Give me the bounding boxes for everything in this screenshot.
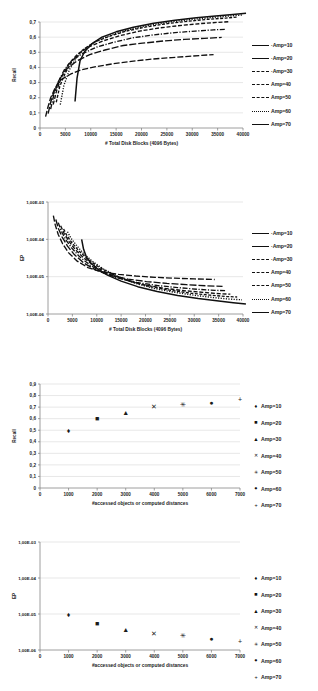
chart-svg-2: 1,00E-061,00E-051,00E-041,00E-0305000100… (0, 178, 252, 360)
legend-label: Amp=50 (271, 94, 291, 100)
y-tick-label: 0,3 (30, 451, 37, 456)
legend-item-amp-20[interactable]: ■Amp=20 (252, 587, 281, 604)
legend-4: ♦Amp=10■Amp=20▲Amp=30✕Amp=40✳Amp=50●Amp=… (252, 570, 281, 686)
legend-label: ·Amp=20 (271, 243, 292, 249)
legend-item-amp-40[interactable]: Amp=40 (252, 78, 292, 91)
legend-line-swatch (252, 255, 269, 262)
legend-item-amp-10[interactable]: ♦Amp=10 (252, 398, 281, 415)
legend-line-swatch (252, 67, 269, 74)
legend-square-icon: ■ (252, 420, 260, 425)
x-tick-label: 6000 (206, 654, 217, 659)
legend-item-amp-50[interactable]: Amp=50 (252, 91, 292, 104)
legend-item-amp-30[interactable]: ·Amp=30 (252, 252, 292, 265)
legend-plus-icon: + (252, 503, 260, 508)
legend-item-amp-20[interactable]: ·Amp=20 (252, 239, 292, 252)
x-tick-label: 25000 (160, 132, 173, 137)
legend-item-amp-40[interactable]: ✕Amp=40 (252, 448, 281, 465)
legend-label: Amp=20 (261, 592, 281, 598)
legend-item-amp-70[interactable]: Amp=70 (252, 305, 292, 318)
point-amp-10: ♦ (67, 427, 71, 434)
plot-area-3: 00,10,20,30,40,50,60,70,80,9010002000300… (0, 362, 252, 530)
legend-plus-icon: + (252, 675, 260, 680)
point-amp-70: + (238, 638, 242, 645)
x-axis-title: # Total Disk Blocks (4096 Bytes) (105, 141, 179, 146)
legend-3: ♦Amp=10■Amp=20▲Amp=30✕Amp=40✳Amp=50●Amp=… (252, 398, 281, 514)
legend-item-amp-10[interactable]: ♦Amp=10 (252, 570, 281, 587)
x-axis-title: #accessed objects or computed distances (92, 663, 189, 668)
plot-area-1: 00,10,20,30,40,50,60,7050001000015000200… (0, 0, 252, 175)
x-tick-label: 10000 (84, 132, 97, 137)
point-amp-40: ✕ (151, 403, 157, 410)
legend-item-amp-50[interactable]: ✳Amp=50 (252, 636, 281, 653)
x-tick-label: 20000 (135, 132, 148, 137)
legend-label: Amp=50 (271, 282, 291, 288)
x-tick-label: 25000 (163, 318, 176, 323)
legend-label: ·Amp=30 (271, 256, 292, 262)
y-tick-label: 0 (33, 126, 36, 131)
legend-item-amp-60[interactable]: Amp=60 (252, 292, 292, 305)
legend-2: ·Amp=10 ·Amp=20 ·Amp=30Amp=40Amp=50Amp=6… (252, 226, 292, 318)
series-amp-30 (51, 29, 226, 109)
point-amp-60: ● (209, 635, 213, 642)
y-tick-label: 1,00E-06 (26, 312, 44, 317)
legend-label: Amp=60 (261, 486, 281, 492)
legend-item-amp-40[interactable]: Amp=40 (252, 266, 292, 279)
x-tick-label: 35000 (212, 318, 225, 323)
legend-line-swatch (252, 94, 269, 101)
x-tick-label: 40000 (237, 318, 250, 323)
y-tick-label: 0,4 (30, 439, 37, 444)
legend-item-amp-20[interactable]: ·Amp=20 (252, 51, 292, 64)
legend-label: ·Amp=10 (271, 42, 292, 48)
legend-item-amp-50[interactable]: ✳Amp=50 (252, 464, 281, 481)
x-axis-title: #accessed objects or computed distances (92, 501, 189, 506)
legend-label: Amp=20 (261, 420, 281, 426)
legend-line-swatch (252, 81, 269, 88)
x-tick-label: 5000 (60, 132, 71, 137)
x-tick-label: 15000 (110, 132, 123, 137)
y-axis-title: Recall (12, 429, 17, 443)
x-axis-title: # Total Disk Blocks (4096 Bytes) (109, 327, 183, 332)
legend-item-amp-30[interactable]: ▲Amp=30 (252, 603, 281, 620)
legend-item-amp-40[interactable]: ✕Amp=40 (252, 620, 281, 637)
point-amp-40: ✕ (151, 630, 157, 637)
legend-label: Amp=70 (271, 121, 291, 127)
legend-item-amp-70[interactable]: Amp=70 (252, 117, 292, 130)
legend-item-amp-70[interactable]: +Amp=70 (252, 669, 281, 686)
x-tick-label: 0 (39, 492, 42, 497)
legend-item-amp-60[interactable]: Amp=60 (252, 104, 292, 117)
x-tick-label: 10000 (90, 318, 103, 323)
legend-item-amp-60[interactable]: ●Amp=60 (252, 481, 281, 498)
legend-label: Amp=60 (261, 658, 281, 664)
legend-item-amp-20[interactable]: ■Amp=20 (252, 415, 281, 432)
legend-label: Amp=30 (261, 608, 281, 614)
chart-svg-1: 00,10,20,30,40,50,60,7050001000015000200… (0, 0, 252, 175)
y-tick-label: 0,3 (30, 80, 37, 85)
y-tick-label: 0 (33, 486, 36, 491)
y-tick-label: 0,7 (30, 20, 37, 25)
point-amp-10: ♦ (67, 611, 71, 618)
legend-item-amp-30[interactable]: ·Amp=30 (252, 64, 292, 77)
legend-label: Amp=60 (271, 296, 291, 302)
y-tick-label: 1,00E-06 (18, 648, 36, 653)
legend-item-amp-10[interactable]: ·Amp=10 (252, 38, 292, 51)
legend-label: Amp=40 (271, 269, 291, 275)
legend-line-swatch (252, 107, 269, 114)
legend-label: Amp=10 (261, 575, 281, 581)
legend-line-swatch (252, 229, 269, 236)
y-tick-label: 0,5 (30, 50, 37, 55)
legend-line-swatch (252, 242, 269, 249)
x-tick-label: 30000 (186, 132, 199, 137)
legend-item-amp-30[interactable]: ▲Amp=30 (252, 431, 281, 448)
legend-line-swatch (252, 269, 269, 276)
y-tick-label: 0,1 (30, 111, 37, 116)
x-tick-label: 40000 (237, 132, 250, 137)
legend-item-amp-50[interactable]: Amp=50 (252, 279, 292, 292)
legend-label: Amp=50 (261, 469, 281, 475)
legend-item-amp-10[interactable]: ·Amp=10 (252, 226, 292, 239)
y-tick-label: 0,6 (30, 35, 37, 40)
legend-line-swatch (252, 41, 269, 48)
legend-item-amp-70[interactable]: +Amp=70 (252, 497, 281, 514)
y-tick-label: 1,00E-03 (18, 540, 36, 545)
legend-item-amp-60[interactable]: ●Amp=60 (252, 653, 281, 670)
x-tick-label: 1000 (63, 654, 74, 659)
